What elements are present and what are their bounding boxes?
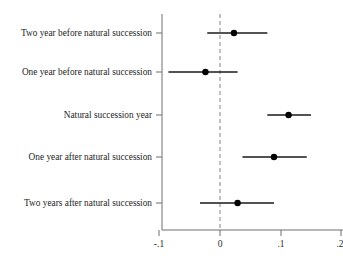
point-estimate-marker [202,69,208,75]
plot-canvas: Two year before natural succession One y… [0,0,343,259]
coefficient-plot: Two year before natural succession One y… [0,0,343,259]
x-tick-label-3: .2 [336,239,343,249]
point-estimate-marker [231,30,237,36]
point-estimate-marker [234,200,240,206]
plot-background [0,0,343,259]
x-tick-label-2: .1 [277,239,284,249]
category-label-4: Two years after natural succession [24,198,152,208]
point-estimate-marker [271,154,277,160]
category-label-1: One year before natural succession [22,67,152,77]
category-label-2: Natural succession year [64,110,153,120]
point-estimate-marker [285,112,291,118]
x-tick-label-1: 0 [218,239,223,249]
category-label-3: One year after natural succession [29,152,153,162]
category-label-0: Two year before natural succession [21,28,152,38]
x-tick-label-0: -.1 [154,239,165,249]
